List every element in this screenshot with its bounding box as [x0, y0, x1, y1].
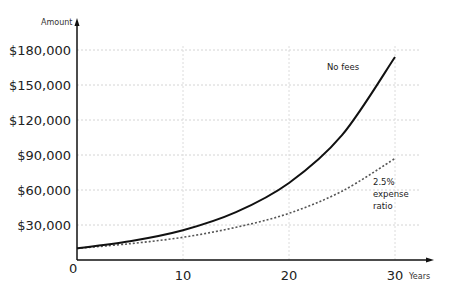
y-tick-label: $30,000: [17, 218, 71, 233]
gridlines: [77, 45, 420, 260]
y-tick-label: $180,000: [9, 43, 71, 58]
x-tick-label: 20: [281, 268, 298, 283]
x-axis-arrow-icon: [426, 258, 434, 263]
annotation-no-fees: No fees: [327, 62, 360, 72]
y-tick-label: $60,000: [17, 183, 71, 198]
origin-label: 0: [69, 261, 77, 276]
growth-chart: $30,000$60,000$90,000$120,000$150,000$18…: [0, 0, 450, 295]
annotation-expense-line3: ratio: [373, 201, 393, 211]
y-tick-label: $90,000: [17, 148, 71, 163]
annotation-expense-line1: 2.5%: [373, 177, 395, 187]
series-expense-ratio-line: [77, 159, 395, 249]
y-tick-label: $150,000: [9, 78, 71, 93]
y-tick-labels: $30,000$60,000$90,000$120,000$150,000$18…: [9, 43, 71, 233]
y-tick-label: $120,000: [9, 113, 71, 128]
x-tick-label: 10: [175, 268, 192, 283]
y-axis-arrow-icon: [75, 18, 80, 26]
x-tick-label: 30: [387, 268, 404, 283]
y-axis-title: Amount: [41, 18, 72, 27]
annotation-expense-line2: expense: [373, 189, 409, 199]
x-axis-title: Years: [408, 272, 430, 281]
x-tick-labels: 102030: [175, 268, 404, 283]
series-no-fees-line: [77, 57, 395, 248]
